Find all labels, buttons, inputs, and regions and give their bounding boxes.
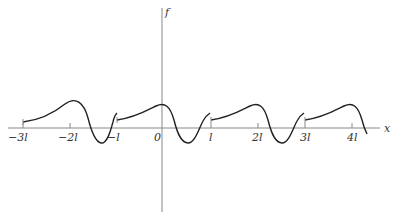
tick-label-2l: 2l bbox=[251, 131, 263, 144]
x-ticks bbox=[23, 123, 352, 128]
tick-label-3l: 3l bbox=[300, 131, 311, 144]
x-axis-label: x bbox=[384, 122, 391, 135]
tick-label-neg2l: −2l bbox=[58, 131, 78, 144]
tick-label-neg3l: −3l bbox=[8, 131, 28, 144]
tick-label-4l: 4l bbox=[346, 131, 358, 144]
y-axis-label: f bbox=[164, 6, 171, 19]
tick-label-negl: −l bbox=[107, 131, 120, 144]
tick-label-l: l bbox=[209, 131, 213, 144]
curve-segment-2 bbox=[117, 105, 210, 143]
periodic-function-plot: f x −3l −2l −l 0 l 2l 3l 4l bbox=[0, 0, 399, 220]
tick-label-0: 0 bbox=[154, 131, 161, 144]
curve-segment-4 bbox=[305, 105, 367, 134]
